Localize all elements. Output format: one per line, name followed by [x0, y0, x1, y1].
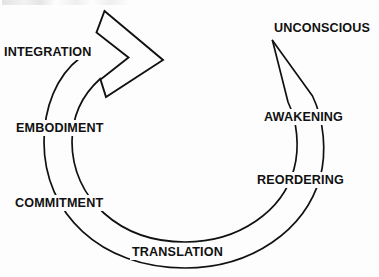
cycle-diagram: INTEGRATION EMBODIMENT COMMITMENT TRANSL…: [0, 0, 379, 277]
node-label-integration: INTEGRATION: [2, 44, 93, 60]
node-label-translation: TRANSLATION: [130, 244, 225, 260]
node-label-unconscious: UNCONSCIOUS: [272, 20, 372, 36]
node-label-awakening: AWAKENING: [262, 109, 345, 125]
node-label-embodiment: EMBODIMENT: [14, 120, 106, 136]
inner-cycle-arc: [72, 41, 297, 243]
cycle-diagram-svg: [0, 0, 379, 277]
node-label-reordering: REORDERING: [255, 172, 346, 188]
cycle-arrow-icon: [97, 11, 164, 97]
node-label-commitment: COMMITMENT: [13, 195, 105, 211]
